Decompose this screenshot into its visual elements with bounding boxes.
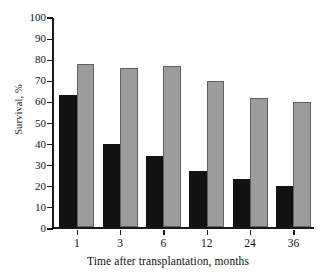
bar-dark[interactable] [276, 186, 294, 228]
y-tick-mark [47, 123, 53, 124]
x-tick-mark [77, 230, 78, 235]
y-tick-mark [47, 186, 53, 187]
y-tick-label: 0 [41, 221, 47, 236]
y-tick-mark [47, 165, 53, 166]
x-tick-mark [293, 230, 294, 235]
x-tick-mark [250, 230, 251, 235]
x-tick-label: 1 [74, 237, 80, 249]
y-tick-mark [47, 17, 53, 18]
y-tick-label: 20 [35, 179, 46, 194]
bar-group [103, 18, 138, 227]
x-tick-label: 24 [244, 237, 256, 249]
bar-light[interactable] [77, 64, 95, 227]
y-tick-mark [47, 81, 53, 82]
y-tick-label: 40 [35, 137, 46, 152]
x-tick-label: 36 [288, 237, 300, 249]
y-tick-label: 100 [30, 10, 47, 25]
plot-area: 1009080706050403020100 [52, 18, 314, 229]
y-tick-label: 80 [35, 52, 46, 67]
y-tick-label: 60 [35, 94, 46, 109]
bar-group [146, 18, 181, 227]
bar-dark[interactable] [233, 179, 251, 227]
bar-group [189, 18, 224, 227]
bar-group [233, 18, 268, 227]
bar-group [59, 18, 94, 227]
bar-dark[interactable] [103, 144, 121, 228]
y-tick-mark [47, 102, 53, 103]
y-tick-label: 50 [35, 116, 46, 131]
bar-light[interactable] [250, 98, 268, 228]
y-tick-label: 90 [35, 31, 46, 46]
bar-dark[interactable] [189, 171, 207, 228]
x-tick-mark [163, 230, 164, 235]
x-tick-label: 3 [117, 237, 123, 249]
y-tick-label: 30 [35, 158, 46, 173]
bar-light[interactable] [120, 68, 138, 227]
x-tick-mark [207, 230, 208, 235]
bar-chart-figure: Survival, % 1009080706050403020100 13612… [0, 0, 336, 280]
bar-dark[interactable] [59, 95, 77, 227]
y-tick-mark [47, 60, 53, 61]
bar-group [276, 18, 311, 227]
y-tick-mark [47, 39, 53, 40]
y-tick-label: 10 [35, 200, 46, 215]
y-tick-label: 70 [35, 73, 46, 88]
bar-light[interactable] [293, 102, 311, 228]
x-axis-line [52, 227, 314, 229]
x-axis-title: Time after transplantation, months [0, 255, 336, 267]
bar-light[interactable] [207, 81, 225, 228]
x-tick-mark [120, 230, 121, 235]
y-axis-title: Survival, % [13, 50, 24, 170]
bars-container [54, 18, 314, 227]
bar-dark[interactable] [146, 156, 164, 227]
bar-light[interactable] [163, 66, 181, 227]
x-tick-label: 12 [201, 237, 213, 249]
y-tick-mark [47, 207, 53, 208]
x-tick-label: 6 [161, 237, 167, 249]
x-axis-ticks: 136122436 [52, 230, 314, 256]
y-tick-mark [47, 144, 53, 145]
